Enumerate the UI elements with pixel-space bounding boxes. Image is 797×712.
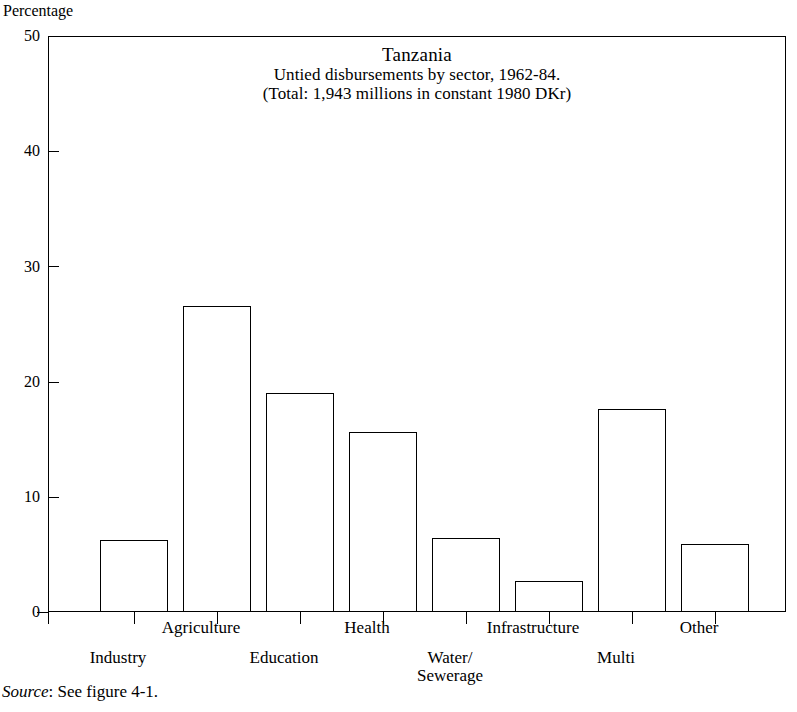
- bar-industry[interactable]: [100, 540, 168, 612]
- x-label-infrastructure: Infrastructure: [453, 619, 613, 637]
- x-label-water-line1: Water/: [370, 649, 530, 667]
- y-tick-label-10: 10: [8, 488, 40, 506]
- y-tick-label-30: 30: [8, 258, 40, 276]
- y-tick-mark-0: [37, 612, 48, 613]
- x-label-water-sewerage: Water/ Sewerage: [370, 649, 530, 685]
- bar-infrastructure[interactable]: [515, 581, 583, 612]
- y-tick-label-50: 50: [8, 27, 40, 45]
- x-label-other: Other: [619, 619, 779, 637]
- bar-multi[interactable]: [598, 409, 666, 612]
- x-tick-mark-0: [48, 612, 49, 624]
- x-label-agriculture: Agriculture: [121, 619, 281, 637]
- bar-agriculture[interactable]: [183, 306, 251, 612]
- bar-education[interactable]: [266, 393, 334, 612]
- x-label-water-line2: Sewerage: [370, 667, 530, 685]
- source-text: : See figure 4-1.: [49, 682, 159, 701]
- y-tick-label-20: 20: [8, 373, 40, 391]
- source-label: Source: [2, 682, 49, 701]
- bar-water-sewerage[interactable]: [432, 538, 500, 612]
- bars-layer: [48, 36, 786, 612]
- y-tick-label-0: 0: [8, 603, 40, 621]
- bar-other[interactable]: [681, 544, 749, 612]
- y-tick-label-40: 40: [8, 142, 40, 160]
- x-label-industry: Industry: [38, 649, 198, 667]
- x-label-education: Education: [204, 649, 364, 667]
- x-label-health: Health: [287, 619, 447, 637]
- bar-health[interactable]: [349, 432, 417, 612]
- figure-container: Percentage Tanzania Untied disbursements…: [0, 0, 797, 712]
- y-axis-title: Percentage: [3, 2, 73, 20]
- x-label-multi: Multi: [536, 649, 696, 667]
- source-note: Source: See figure 4-1.: [2, 682, 158, 702]
